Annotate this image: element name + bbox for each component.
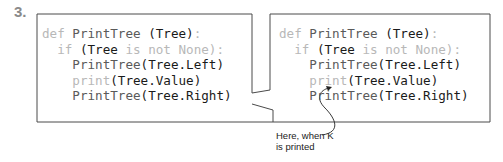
code-token: ): xyxy=(209,42,224,57)
code-token: (Tree xyxy=(80,42,118,57)
code-token: def xyxy=(42,26,72,41)
code-line: if (Tree is not None): xyxy=(279,42,469,58)
code-line: PrintTree(Tree.Left) xyxy=(42,57,232,73)
code-token: (Tree.Right) xyxy=(378,88,469,103)
code-line: if (Tree is not None): xyxy=(42,42,232,58)
code-line: PrintTree(Tree.Right) xyxy=(279,88,469,104)
code-token: (Tree) xyxy=(378,26,431,41)
code-token: (Tree.Left) xyxy=(378,57,461,72)
code-line: PrintTree(Tree.Right) xyxy=(42,88,232,104)
code-line: PrintTree(Tree.Left) xyxy=(279,57,469,73)
code-token: if xyxy=(279,42,317,57)
code-token: PrintTree xyxy=(309,26,377,41)
code-token: print xyxy=(42,73,110,88)
code-token: if xyxy=(42,42,80,57)
code-line: def PrintTree (Tree): xyxy=(42,26,232,42)
annotation-line-1: Here, when K xyxy=(276,130,334,141)
code-token: def xyxy=(279,26,309,41)
annotation-line-2: is printed xyxy=(276,141,334,152)
code-token: print xyxy=(279,73,347,88)
code-token: is not None xyxy=(355,42,446,57)
annotation-note: Here, when K is printed xyxy=(276,130,334,152)
code-token: : xyxy=(431,26,439,41)
code-token: PrintTree xyxy=(42,88,141,103)
code-token: PrintTree xyxy=(279,57,378,72)
code-token: PrintTree xyxy=(72,26,140,41)
code-line: def PrintTree (Tree): xyxy=(279,26,469,42)
code-line: print(Tree.Value) xyxy=(42,73,232,89)
code-token: (Tree.Right) xyxy=(141,88,232,103)
code-token: ): xyxy=(446,42,461,57)
code-token: PrintTree xyxy=(42,57,141,72)
code-line: print(Tree.Value) xyxy=(279,73,469,89)
code-token: (Tree.Left) xyxy=(141,57,224,72)
code-token: PrintTree xyxy=(279,88,378,103)
code-token: (Tree.Value) xyxy=(110,73,201,88)
code-token: (Tree xyxy=(317,42,355,57)
code-token: (Tree) xyxy=(141,26,194,41)
code-token: is not None xyxy=(118,42,209,57)
right-frame-code: def PrintTree (Tree): if (Tree is not No… xyxy=(279,26,469,104)
left-frame-code: def PrintTree (Tree): if (Tree is not No… xyxy=(42,26,232,104)
code-token: (Tree.Value) xyxy=(347,73,438,88)
code-token: : xyxy=(194,26,202,41)
